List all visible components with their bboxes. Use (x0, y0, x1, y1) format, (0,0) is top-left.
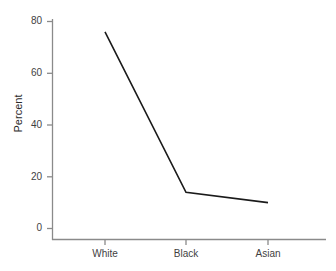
x-tick-label-black: Black (156, 249, 216, 259)
data-line-percent (105, 32, 268, 203)
y-tick-label-0: 0 (14, 223, 42, 233)
x-tick-label-asian: Asian (238, 249, 298, 259)
x-tick-label-white: White (75, 249, 135, 259)
y-tick-label-80: 80 (14, 16, 42, 26)
y-axis-title: Percent (13, 74, 24, 154)
chart-plot-area (0, 0, 336, 271)
chart-container: 80 60 40 20 0 White Black Asian Percent (0, 0, 336, 271)
y-tick-label-20: 20 (14, 172, 42, 182)
